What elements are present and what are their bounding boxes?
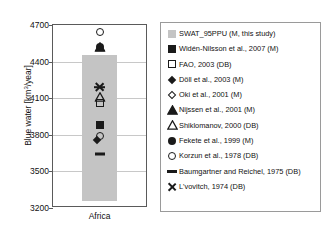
legend-item-label: Shiklomanov, 2000 (DB) (179, 122, 259, 129)
legend-item-label: Oki et al., 2001 (M) (179, 91, 242, 98)
legend-item-label: Widén-Nilsson et al., 2007 (M) (179, 45, 278, 52)
legend-marker-square-fill-icon (165, 42, 179, 56)
data-point-marker (97, 140, 103, 146)
y-axis-title-tail: /year] (23, 65, 33, 86)
data-point-marker (96, 132, 104, 140)
legend-marker-tri-open-icon (165, 118, 179, 132)
legend-item-label: Korzun et al., 1978 (DB) (179, 152, 258, 159)
legend-item-label: SWAT_95PPU (M, this study) (179, 30, 276, 37)
marker-circle-open2-icon (96, 28, 104, 36)
legend-item[interactable]: SWAT_95PPU (M, this study) (165, 26, 320, 41)
y-tick-mark (49, 62, 53, 63)
legend-item-label: Baumgartner and Reichel, 1975 (DB) (179, 168, 301, 175)
legend-marker-diamond-open-icon (165, 88, 179, 102)
legend-item[interactable]: FAO, 2003 (DB) (165, 57, 320, 72)
y-tick-mark (49, 135, 53, 136)
y-tick-label: 3200 (30, 203, 49, 213)
data-point-marker (94, 92, 105, 102)
legend-item[interactable]: Döll et al., 2003 (M) (165, 72, 320, 87)
y-tick-label: 4400 (30, 57, 49, 67)
legend-item-label: Nijssen et al., 2001 (M) (179, 106, 255, 113)
legend-marker-diamond-fill-icon (165, 73, 179, 87)
legend-item[interactable]: Fekete et al., 1999 (M) (165, 133, 320, 148)
legend: SWAT_95PPU (M, this study)Widén-Nilsson … (160, 22, 321, 212)
legend-item[interactable]: Shiklomanov, 2000 (DB) (165, 118, 320, 133)
legend-item[interactable]: Korzun et al., 1978 (DB) (165, 148, 320, 163)
legend-marker-tri-fill-icon (165, 103, 179, 117)
marker-tri-open-icon (94, 92, 105, 102)
y-tick-label: 3800 (30, 130, 49, 140)
legend-marker-square-gray-icon (165, 27, 179, 41)
y-tick-mark (49, 25, 53, 26)
legend-item-label: L'vovitch, 1974 (DB) (179, 183, 245, 190)
data-point-marker (96, 43, 104, 51)
data-point-marker (96, 28, 104, 36)
data-point-marker (96, 121, 104, 129)
data-point-marker (95, 153, 105, 156)
marker-circle-fill-icon (96, 43, 104, 51)
y-tick-label: 4700 (30, 20, 49, 30)
legend-item-label: Fekete et al., 1999 (M) (179, 137, 253, 144)
legend-marker-square-open-icon (165, 57, 179, 71)
y-axis-title: Blue water [km3/year] (23, 30, 34, 180)
y-tick-mark (49, 171, 53, 172)
chart-figure: Blue water [km3/year] 470044004100380035… (0, 0, 325, 245)
marker-circle-open-icon (96, 132, 104, 140)
legend-marker-x-icon (165, 180, 179, 194)
y-tick-mark (49, 208, 53, 209)
plot-area: 470044004100380035003200 (52, 24, 147, 207)
legend-item[interactable]: Baumgartner and Reichel, 1975 (DB) (165, 164, 320, 179)
y-tick-mark (49, 98, 53, 99)
marker-dash-icon (95, 153, 105, 156)
y-axis-title-exponent: 3 (23, 86, 29, 89)
y-tick-label: 3500 (30, 166, 49, 176)
legend-item[interactable]: Nijssen et al., 2001 (M) (165, 102, 320, 117)
legend-marker-circle-open-icon (165, 149, 179, 163)
marker-square-fill-icon (96, 121, 104, 129)
legend-item-label: Döll et al., 2003 (M) (179, 76, 244, 83)
x-axis-category-label: Africa (52, 211, 147, 221)
legend-item[interactable]: Widén-Nilsson et al., 2007 (M) (165, 41, 320, 56)
legend-marker-dash-icon (165, 164, 179, 178)
legend-item[interactable]: Oki et al., 2001 (M) (165, 87, 320, 102)
y-tick-label: 4100 (30, 93, 49, 103)
legend-marker-circle-fill-icon (165, 134, 179, 148)
legend-item-label: FAO, 2003 (DB) (179, 61, 232, 68)
legend-item[interactable]: L'vovitch, 1974 (DB) (165, 179, 320, 194)
